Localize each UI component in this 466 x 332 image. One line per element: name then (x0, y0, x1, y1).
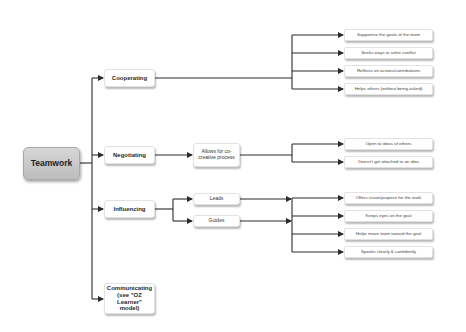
subnode-guides[interactable]: Guides (193, 215, 240, 227)
leaf-label: Keeps eyes on the goal (366, 213, 412, 218)
leaf-label: Speaks clearly & confidently (361, 249, 416, 254)
leaf-label: Open to ideas of others (366, 141, 412, 146)
leaf-node[interactable]: Keeps eyes on the goal (344, 210, 433, 222)
leaf-label: Helps others (without being asked) (355, 86, 423, 91)
leaf-node[interactable]: Helps move team toward the goal (344, 228, 433, 240)
root-label: Teamwork (31, 159, 72, 169)
leaf-node[interactable]: Helps others (without being asked) (344, 83, 433, 95)
leaf-label: Offers vision/purpose for the work (356, 195, 422, 200)
leaf-label: Doesn't get attached to an idea (358, 159, 419, 164)
root-node-teamwork[interactable]: Teamwork (23, 147, 80, 180)
leaf-node[interactable]: Doesn't get attached to an idea (344, 156, 433, 168)
subnode-label: Leads (210, 196, 224, 202)
leaf-node[interactable]: Supportive the goals of the team (344, 29, 433, 41)
branch-node-negotiating[interactable]: Negotiating (104, 146, 155, 164)
leaf-node[interactable]: Reflects on actions/contributions (344, 65, 433, 77)
branch-label: Communicating (see "OZ Learner" model) (107, 285, 152, 313)
teamwork-diagram: Teamwork Cooperating Negotiating Influen… (0, 0, 466, 332)
branch-label: Negotiating (113, 152, 146, 159)
leaf-label: Reflects on actions/contributions (357, 68, 420, 73)
subnode-label: Guides (209, 218, 225, 224)
leaf-node[interactable]: Seeks ways to solve conflict (344, 47, 433, 59)
subnode-label: Allows for co-creative process (197, 149, 236, 161)
subnode-allows-co-creative[interactable]: Allows for co-creative process (193, 143, 240, 167)
leaf-node[interactable]: Offers vision/purpose for the work (344, 192, 433, 204)
branch-node-cooperating[interactable]: Cooperating (104, 69, 155, 87)
leaf-node[interactable]: Open to ideas of others (344, 138, 433, 150)
branch-node-communicating[interactable]: Communicating (see "OZ Learner" model) (104, 283, 155, 314)
leaf-label: Seeks ways to solve conflict (361, 50, 416, 55)
branch-node-influencing[interactable]: Influencing (104, 200, 155, 218)
leaf-label: Helps move team toward the goal (356, 231, 421, 236)
leaf-label: Supportive the goals of the team (357, 32, 420, 37)
branch-label: Influencing (114, 206, 146, 213)
leaf-node[interactable]: Speaks clearly & confidently (344, 246, 433, 258)
branch-label: Cooperating (112, 75, 147, 82)
subnode-leads[interactable]: Leads (193, 193, 240, 205)
